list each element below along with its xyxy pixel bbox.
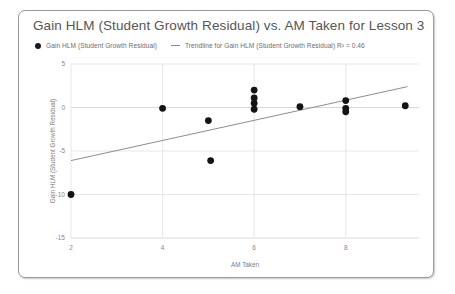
y-tick-label: -10: [56, 191, 66, 198]
data-point[interactable]: [68, 191, 75, 198]
data-point[interactable]: [159, 105, 166, 112]
chart-card: Gain HLM (Student Growth Residual) vs. A…: [18, 10, 434, 278]
data-point[interactable]: [297, 103, 304, 110]
x-tick-label: 4: [161, 244, 165, 251]
data-point[interactable]: [342, 97, 349, 104]
data-point[interactable]: [207, 157, 214, 164]
trendline: [71, 87, 408, 161]
data-point[interactable]: [251, 87, 258, 94]
data-point[interactable]: [342, 108, 349, 115]
data-point[interactable]: [205, 117, 212, 124]
y-axis-ticks: 50-5-10-15: [56, 60, 66, 241]
y-tick-label: 5: [61, 60, 65, 67]
data-point[interactable]: [251, 106, 258, 113]
gridlines-group: [71, 64, 419, 238]
data-points-group: [68, 87, 409, 198]
x-tick-label: 8: [344, 244, 348, 251]
x-axis-title: AM Taken: [231, 261, 259, 268]
data-point[interactable]: [251, 100, 258, 107]
data-point[interactable]: [402, 102, 409, 109]
plot-area: 50-5-10-15 2468 AM Taken Gain HLM (Stude…: [19, 11, 435, 279]
y-tick-label: -5: [59, 147, 65, 154]
x-tick-label: 6: [252, 244, 256, 251]
y-tick-label: 0: [61, 104, 65, 111]
y-tick-label: -15: [56, 234, 66, 241]
x-tick-label: 2: [69, 244, 73, 251]
scatter-plot-svg: 50-5-10-15 2468 AM Taken Gain HLM (Stude…: [19, 11, 435, 279]
x-axis-ticks: 2468: [69, 244, 348, 251]
y-axis-title: Gain HLM (Student Growth Residual): [49, 99, 57, 203]
